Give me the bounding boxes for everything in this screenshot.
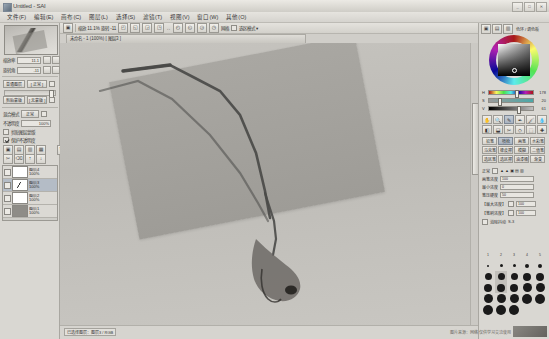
navigator-thumbnail[interactable]: [4, 25, 58, 55]
brush-preset[interactable]: 油漆桶: [514, 155, 529, 163]
brush-size-cell[interactable]: [495, 260, 507, 271]
brush-preset[interactable]: 马克笔: [482, 146, 497, 154]
brush-size-cell[interactable]: [534, 271, 546, 282]
zoom-value-field[interactable]: 11.1: [17, 57, 41, 64]
canvas-viewport[interactable]: [60, 43, 478, 331]
brush-size-cell[interactable]: [482, 293, 494, 304]
zoom-out-button[interactable]: [52, 56, 60, 64]
layer-visibility-icon[interactable]: [4, 169, 11, 176]
value-slider-knob[interactable]: [517, 106, 521, 114]
brush-size-cell[interactable]: [482, 282, 494, 293]
move-layer-up-icon[interactable]: ↑: [25, 154, 35, 164]
brush-size-cell[interactable]: [508, 260, 520, 271]
menu-layer[interactable]: 图层(L): [85, 13, 112, 22]
lock-alpha-checkbox[interactable]: [3, 137, 9, 143]
canvas-rotate-c-icon[interactable]: ◶: [197, 23, 207, 33]
brush-size-cell[interactable]: [521, 282, 533, 293]
grid-checkbox[interactable]: [231, 25, 237, 31]
menu-file[interactable]: 文件(F): [3, 13, 30, 22]
cut-layer-icon[interactable]: ✂: [3, 154, 13, 164]
layer-mode-value[interactable]: [ 正常 ]: [27, 80, 47, 88]
brush-size-cell[interactable]: [521, 293, 533, 304]
brush-shape-icons[interactable]: ▲ ▲ ▣ ▤ ▥: [500, 168, 524, 173]
brush-max-density-checkbox[interactable]: [508, 201, 514, 207]
minimize-button[interactable]: _: [512, 2, 523, 12]
brush-size-cell[interactable]: [534, 282, 546, 293]
brush-size-cell[interactable]: [495, 304, 507, 315]
pen-tool-icon[interactable]: ✒: [515, 115, 525, 124]
tab-color-wheel[interactable]: ▣: [481, 24, 491, 34]
brush-blend-label[interactable]: 正常: [482, 168, 490, 174]
brush-size-cell[interactable]: [534, 260, 546, 271]
brush-size-cell[interactable]: [534, 293, 546, 304]
marquee-tool-icon[interactable]: ⬚: [526, 125, 536, 134]
clip-mask-value[interactable]: [ 无蒙版 ]: [27, 96, 47, 104]
menu-other[interactable]: 其他(O): [222, 13, 250, 22]
brush-preset[interactable]: 水彩笔: [530, 137, 545, 145]
clip-mask-checkbox[interactable]: [49, 97, 55, 103]
brush-preset[interactable]: 模糊: [514, 146, 529, 154]
lasso-tool-icon[interactable]: ◇: [515, 125, 525, 134]
menu-window[interactable]: 窗口(W): [193, 13, 222, 22]
brush-hardness-field[interactable]: 50: [500, 192, 534, 198]
canvas-flip-c-icon[interactable]: ◲: [142, 23, 152, 33]
menu-canvas[interactable]: 画布(C): [57, 13, 85, 22]
rotate-left-button[interactable]: [43, 66, 51, 74]
brush-preset[interactable]: 画笔: [514, 137, 529, 145]
brush-size-cell[interactable]: [508, 304, 520, 315]
table-row[interactable]: 图层2 100%: [3, 192, 57, 205]
brush-stabilizer-checkbox[interactable]: [482, 219, 488, 225]
brush-size-cell[interactable]: [508, 293, 520, 304]
water-tool-icon[interactable]: 💧: [537, 115, 547, 124]
move-layer-down-icon[interactable]: ↓: [36, 154, 46, 164]
tab-color-mixer[interactable]: ▤: [492, 24, 502, 34]
value-slider[interactable]: [488, 106, 534, 111]
selection-mode-dropdown[interactable]: 选区模式 ▾: [239, 25, 259, 31]
brush-size-cell[interactable]: [482, 271, 494, 282]
brush-preset[interactable]: 橡皮擦: [498, 146, 513, 154]
brush-preset[interactable]: 选区笔: [482, 155, 497, 163]
clear-layer-icon[interactable]: ⌫: [14, 154, 24, 164]
canvas-tool-1-icon[interactable]: ▣: [63, 23, 73, 33]
opacity-value-field[interactable]: 100%: [21, 120, 51, 127]
color-cursor[interactable]: [512, 68, 517, 73]
canvas-rotate-d-icon[interactable]: ◷: [209, 23, 219, 33]
zoom-tool-icon[interactable]: 🔍: [493, 115, 503, 124]
canvas-rotate-b-icon[interactable]: ◵: [185, 23, 195, 33]
table-row[interactable]: 图层3 100%: [3, 179, 57, 192]
menu-edit[interactable]: 编辑(E): [30, 13, 57, 22]
layer-visibility-icon[interactable]: [4, 208, 11, 215]
table-row[interactable]: 图层4 100%: [3, 166, 57, 179]
zoom-in-button[interactable]: [43, 56, 51, 64]
menu-view[interactable]: 视图(V): [166, 13, 193, 22]
hue-slider[interactable]: [488, 90, 534, 95]
maximize-button[interactable]: □: [524, 2, 535, 12]
canvas-flip-a-icon[interactable]: ◰: [118, 23, 128, 33]
brush-size-cell[interactable]: [495, 282, 507, 293]
brush-size-cell[interactable]: [495, 293, 507, 304]
blend-mode-value[interactable]: 正常: [21, 110, 39, 118]
brush-preset[interactable]: 喷枪: [498, 137, 513, 145]
brush-size-cell[interactable]: [508, 271, 520, 282]
scissors-tool-icon[interactable]: ✂: [504, 125, 514, 134]
brush-preset[interactable]: 渐变: [530, 155, 545, 163]
brush-preset[interactable]: 选区擦: [498, 155, 513, 163]
brush-tool-icon[interactable]: 🖌: [526, 115, 536, 124]
menu-filter[interactable]: 滤镜(T): [139, 13, 166, 22]
clip-layer-checkbox[interactable]: [3, 129, 9, 135]
move-tool-icon[interactable]: ✚: [537, 125, 547, 134]
canvas-rotate-a-icon[interactable]: ◴: [173, 23, 183, 33]
document-tab[interactable]: 未命名 - 1 (100%) [ 图层3 ]: [66, 34, 306, 43]
layer-visibility-icon[interactable]: [4, 182, 11, 189]
blend-mode-checkbox[interactable]: [41, 111, 47, 117]
brush-size-cell[interactable]: [482, 304, 494, 315]
close-button[interactable]: ✕: [536, 2, 547, 12]
gradient-tool-icon[interactable]: ⬓: [493, 125, 503, 134]
tab-swatches[interactable]: ▥: [503, 24, 513, 34]
saturation-slider[interactable]: [488, 98, 534, 103]
pencil-tool-icon[interactable]: ✎: [504, 115, 514, 124]
bucket-tool-icon[interactable]: ◧: [482, 125, 492, 134]
brush-size-cell[interactable]: [521, 271, 533, 282]
brush-size-cell[interactable]: [508, 282, 520, 293]
vertical-scrollbar[interactable]: [470, 43, 478, 325]
